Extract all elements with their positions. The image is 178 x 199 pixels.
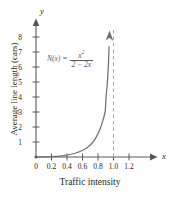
x-axis-title: Traffic intensity <box>20 177 160 187</box>
x-axis-variable-label: x <box>162 152 166 161</box>
x-tick-label-1_0: 1.0 <box>106 163 122 171</box>
curve-arrowhead <box>106 31 114 42</box>
x-tick-label-0_2: 0.2 <box>44 163 60 171</box>
equation-numerator-exponent: 2 <box>82 49 85 55</box>
equation-numerator: x2 <box>76 50 86 60</box>
y-axis-arrowhead <box>33 19 40 27</box>
x-tick-label-0: 0 <box>28 163 44 171</box>
x-tick-label-0_4: 0.4 <box>59 163 75 171</box>
equation-equals-sign: = <box>63 55 67 63</box>
equation-lhs: N(x) <box>47 55 60 63</box>
x-tick-label-0_6: 0.6 <box>75 163 91 171</box>
x-axis-arrowhead <box>150 154 158 161</box>
equation-annotation: N(x) = x2 2 − 2x <box>47 50 93 68</box>
x-tick-label-1_2: 1.2 <box>121 163 137 171</box>
chart-figure: 1 2 3 4 5 6 7 8 0 0.2 0.4 0.6 0.8 1.0 1.… <box>0 0 178 199</box>
y-axis-title: Average line length (cars) <box>9 19 19 159</box>
equation-fraction: x2 2 − 2x <box>70 50 94 68</box>
equation-denominator: 2 − 2x <box>70 60 94 68</box>
x-tick-label-0_8: 0.8 <box>90 163 106 171</box>
y-axis-variable-label: y <box>40 7 44 16</box>
